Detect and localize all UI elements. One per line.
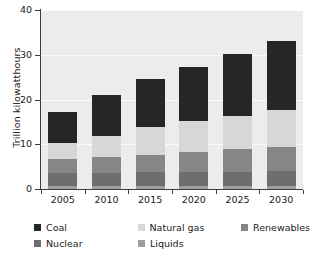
legend-swatch-icon: [34, 240, 41, 247]
bar-stack: [267, 10, 296, 189]
legend-item-coal[interactable]: Coal: [34, 222, 138, 233]
legend-label: Renewables: [253, 222, 310, 233]
y-tick-mark: [35, 189, 40, 190]
bar-segment-natural-gas: [223, 116, 252, 150]
legend-row: CoalNatural gasRenewables: [34, 219, 310, 235]
bar-segment-coal: [92, 95, 121, 136]
bar-segment-natural-gas: [136, 127, 165, 154]
bar-segment-coal: [223, 54, 252, 115]
gridline: [41, 144, 303, 145]
stacked-bar-chart: Trillion kilowatthours 010203040 2005201…: [0, 0, 313, 254]
legend-item-liquids[interactable]: Liquids: [138, 238, 242, 249]
bar-segment-natural-gas: [179, 121, 208, 152]
y-tick-label: 0: [6, 183, 32, 194]
legend-swatch-icon: [138, 224, 145, 231]
plot-area: [41, 10, 303, 189]
chart-legend: CoalNatural gasRenewablesNuclearLiquids: [34, 219, 310, 251]
bar-segment-natural-gas: [92, 136, 121, 157]
legend-swatch-icon: [241, 224, 248, 231]
y-tick-label: 40: [6, 4, 32, 15]
y-tick-label: 20: [6, 94, 32, 105]
legend-label: Natural gas: [150, 222, 205, 233]
gridline: [41, 10, 303, 11]
bar-segment-nuclear: [136, 172, 165, 186]
x-tick-label: 2025: [216, 194, 260, 205]
y-tick-label: 30: [6, 49, 32, 60]
y-tick-mark: [35, 100, 40, 101]
bar-stack: [92, 10, 121, 189]
gridline: [41, 100, 303, 101]
legend-swatch-icon: [138, 240, 145, 247]
bar-stack: [48, 10, 77, 189]
bar-segment-coal: [48, 112, 77, 143]
x-tick-label: 2015: [128, 194, 172, 205]
bar-segment-nuclear: [48, 173, 77, 186]
bar-segment-natural-gas: [267, 110, 296, 147]
legend-item-nuclear[interactable]: Nuclear: [34, 238, 138, 249]
legend-item-renewables[interactable]: Renewables: [241, 222, 310, 233]
bar-segment-renewables: [136, 155, 165, 173]
y-tick-mark: [35, 144, 40, 145]
legend-row: NuclearLiquids: [34, 235, 310, 251]
bar-segment-renewables: [223, 149, 252, 171]
x-tick-label: 2005: [41, 194, 85, 205]
bar-stack: [223, 10, 252, 189]
y-tick-mark: [35, 10, 40, 11]
bar-segment-natural-gas: [48, 143, 77, 159]
x-tick-label: 2020: [172, 194, 216, 205]
bar-segment-nuclear: [267, 171, 296, 187]
gridline: [41, 55, 303, 56]
bar-segment-coal: [267, 41, 296, 110]
legend-label: Coal: [46, 222, 67, 233]
bar-segment-nuclear: [223, 172, 252, 187]
legend-item-natural-gas[interactable]: Natural gas: [138, 222, 242, 233]
bar-stack: [136, 10, 165, 189]
bar-segment-renewables: [48, 159, 77, 173]
bar-segment-renewables: [92, 157, 121, 173]
bar-segment-renewables: [267, 147, 296, 171]
bar-segment-renewables: [179, 152, 208, 172]
y-tick-label: 10: [6, 138, 32, 149]
bar-segment-nuclear: [179, 172, 208, 186]
x-tick-label: 2030: [259, 194, 303, 205]
legend-swatch-icon: [34, 224, 41, 231]
legend-label: Liquids: [150, 238, 184, 249]
y-tick-mark: [35, 55, 40, 56]
bar-segment-nuclear: [92, 173, 121, 186]
x-tick-label: 2010: [85, 194, 129, 205]
bar-segment-coal: [136, 79, 165, 127]
bar-stack: [179, 10, 208, 189]
legend-label: Nuclear: [46, 238, 83, 249]
bar-segment-coal: [179, 67, 208, 121]
y-axis-line: [40, 9, 41, 190]
x-tick-mark: [303, 190, 304, 194]
